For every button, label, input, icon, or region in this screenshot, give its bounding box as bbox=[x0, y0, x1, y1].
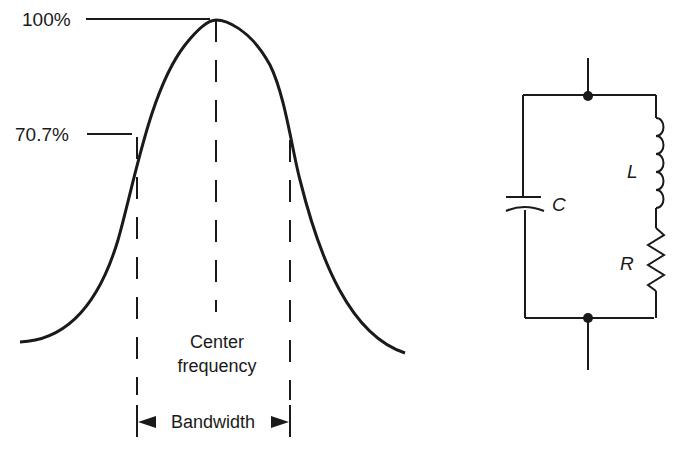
arrow-right-icon bbox=[271, 416, 289, 428]
inductor-label: L bbox=[627, 161, 638, 182]
resistor-label: R bbox=[620, 253, 634, 274]
frequency-label: frequency bbox=[177, 356, 256, 376]
parallel-rlc-circuit bbox=[506, 58, 664, 370]
inductor-coil bbox=[656, 118, 664, 208]
center-label: Center bbox=[190, 332, 244, 352]
diagram-canvas: 100% 70.7% Center frequency Bandwidth C … bbox=[0, 0, 680, 454]
resistor-zigzag bbox=[648, 228, 664, 291]
bottom-junction-node bbox=[583, 313, 593, 323]
resonance-curve bbox=[20, 20, 405, 353]
capacitor-label: C bbox=[552, 194, 566, 215]
arrow-left-icon bbox=[138, 416, 156, 428]
bandwidth-label: Bandwidth bbox=[171, 412, 255, 432]
top-junction-node bbox=[583, 91, 593, 101]
peak-label: 100% bbox=[22, 9, 71, 30]
half-power-label: 70.7% bbox=[15, 124, 69, 145]
